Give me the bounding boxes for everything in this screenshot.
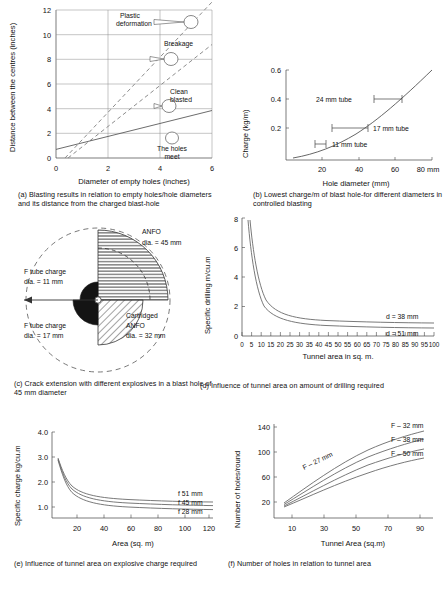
svg-text:20: 20: [318, 165, 326, 174]
svg-text:0: 0: [54, 164, 58, 173]
svg-text:4: 4: [158, 164, 162, 173]
svg-text:dia. = 17 mm: dia. = 17 mm: [24, 332, 64, 339]
panel-b-yticks: 0.6 0.4 0.2: [271, 66, 281, 133]
panel-b-xtick-marks: [322, 157, 432, 160]
svg-text:4: 4: [234, 273, 238, 282]
svg-text:1.0: 1.0: [38, 503, 48, 512]
panel-c-label-cartridged: Cartridged ANFO dia. = 32 mm: [126, 312, 166, 339]
panel-d-chart: Specific drilling m/cu.m 8 6 4 2 0: [196, 212, 447, 377]
svg-text:100: 100: [429, 341, 440, 348]
svg-text:80: 80: [154, 524, 162, 533]
svg-text:100: 100: [258, 448, 270, 457]
panel-a-yticks: 0 2 4 6 8 10 12: [43, 6, 51, 163]
svg-text:30: 30: [320, 524, 328, 533]
svg-text:4: 4: [47, 105, 51, 114]
panel-b-label-11mm: 11 mm tube: [332, 141, 368, 148]
svg-text:10: 10: [43, 31, 51, 40]
svg-text:60: 60: [262, 473, 270, 482]
svg-text:Clean: Clean: [170, 88, 188, 95]
panel-f-label-50mm: F – 50 mm: [391, 450, 424, 457]
panel-c: ANFO dia. = 45 mm F tube charge dia. = 1…: [14, 212, 219, 377]
panel-e: Specific charge kg/cu.m 4.0 3.0 2.0 1.0 …: [8, 408, 220, 556]
panel-d-label-38mm: d = 38 mm: [386, 313, 419, 320]
panel-f-xlabel: Tunnel Area (sq.m): [321, 539, 386, 548]
svg-text:50: 50: [334, 341, 342, 348]
panel-c-caption-label: (c): [14, 379, 23, 388]
panel-d-xlabel: Tunnel area in sq. m.: [302, 352, 373, 361]
panel-b-label-17mm: 17 mm tube: [373, 125, 409, 132]
panel-b-chart: Charge (kg/m) 0.6 0.4 0.2 20 40 60 80 mm: [236, 58, 444, 190]
panel-b-annotation-11mm: [315, 140, 326, 148]
svg-text:140: 140: [258, 423, 270, 432]
panel-b-annotation-17mm: [332, 124, 368, 132]
panel-b-ytick-marks: [286, 70, 289, 128]
svg-text:50: 50: [352, 524, 360, 533]
svg-text:2: 2: [234, 302, 238, 311]
svg-text:75: 75: [382, 341, 390, 348]
svg-text:0.4: 0.4: [271, 95, 281, 104]
panel-b-caption-label: (b): [253, 190, 262, 199]
panel-a-xlabel: Diameter of empty holes (inches): [78, 177, 190, 186]
panel-d-label-51mm: d = 51 mm: [386, 330, 419, 337]
panel-f-caption-line1: Number of holes in relation to tunnel ar…: [237, 559, 371, 568]
panel-e-chart: Specific charge kg/cu.m 4.0 3.0 2.0 1.0 …: [8, 408, 220, 556]
svg-text:4.0: 4.0: [38, 428, 48, 437]
panel-a-annotation-holesmeet: The holes meet: [157, 132, 187, 160]
svg-text:dia. = 45 mm: dia. = 45 mm: [142, 239, 182, 246]
panel-f-chart: Number of holes/round 140 100 60 20 10 3…: [228, 408, 444, 556]
panel-f-ytick-marks: [274, 427, 277, 502]
panel-e-ylabel: Specific charge kg/cu.m: [13, 445, 22, 526]
svg-text:F tube charge: F tube charge: [24, 268, 66, 276]
panel-c-label-ftube11: F tube charge dia. = 11 mm: [24, 268, 66, 285]
svg-text:35: 35: [306, 341, 314, 348]
svg-text:3.0: 3.0: [38, 453, 48, 462]
panel-e-caption-label: (e): [14, 559, 23, 568]
panel-d: Specific drilling m/cu.m 8 6 4 2 0: [196, 212, 447, 377]
figure-sheet: Distance between the centres (inches): [0, 0, 447, 610]
svg-text:8: 8: [47, 55, 51, 64]
svg-text:80 mm: 80 mm: [417, 165, 440, 174]
svg-text:10: 10: [258, 341, 266, 348]
panel-b-xticks: 20 40 60 80 mm: [318, 165, 439, 174]
panel-f-yticks: 140 100 60 20: [258, 423, 270, 507]
svg-text:100: 100: [179, 524, 191, 533]
panel-b-xlabel: Hole diameter (mm): [322, 179, 390, 188]
panel-a-caption-line1: Blasting results in relation to empty ho…: [29, 190, 178, 199]
svg-text:20: 20: [73, 524, 81, 533]
panel-f-ylabel: Number of holes/round: [233, 451, 242, 528]
svg-text:90: 90: [416, 524, 424, 533]
panel-b-ylabel: Charge (kg/m): [241, 109, 250, 158]
panel-c-caption: (c) Crack extension with different explo…: [14, 379, 214, 397]
svg-text:0: 0: [234, 332, 238, 341]
svg-text:Breakage: Breakage: [164, 40, 193, 48]
svg-text:dia. = 32 mm: dia. = 32 mm: [126, 332, 166, 339]
figure-bottom-cut-text: [14, 600, 444, 609]
svg-text:70: 70: [384, 524, 392, 533]
svg-text:F tube charge: F tube charge: [24, 322, 66, 330]
svg-text:The holes: The holes: [157, 145, 187, 152]
svg-text:0: 0: [240, 341, 244, 348]
panel-a-caption: (a) Blasting results in relation to empt…: [18, 190, 223, 208]
panel-d-ytick-marks: [242, 218, 245, 307]
panel-e-ytick-marks: [52, 432, 55, 507]
svg-text:40: 40: [100, 524, 108, 533]
svg-text:Cartridged: Cartridged: [126, 312, 158, 320]
svg-text:20: 20: [262, 498, 270, 507]
svg-text:45: 45: [325, 341, 333, 348]
panel-a-chart: Distance between the centres (inches): [4, 2, 226, 188]
panel-d-caption-label: (d): [200, 381, 209, 390]
panel-b-label-24mm: 24 mm tube: [316, 96, 352, 103]
svg-text:blasted: blasted: [170, 96, 192, 103]
panel-e-label-51mm: f 51 mm: [178, 490, 203, 497]
panel-e-xticks: 20 40 60 80 100 120: [73, 524, 215, 533]
svg-text:40: 40: [315, 341, 323, 348]
svg-text:ANFO: ANFO: [142, 228, 161, 235]
panel-a-lower-solid: [56, 111, 212, 150]
svg-text:Plastic: Plastic: [120, 12, 141, 19]
panel-f-caption: (f) Number of holes in relation to tunne…: [228, 559, 443, 568]
svg-text:meet: meet: [164, 153, 179, 160]
panel-f-label-27mm: F – 27 mm: [301, 450, 334, 471]
panel-d-curve-51mm: [248, 220, 434, 328]
panel-c-ftube11-sector: [80, 282, 98, 300]
svg-text:60: 60: [127, 524, 135, 533]
